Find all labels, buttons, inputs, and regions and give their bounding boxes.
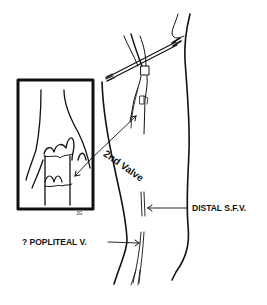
leg-outline-left <box>102 82 127 284</box>
inset-frame <box>18 80 93 209</box>
leg-outline-right <box>172 14 190 280</box>
popliteal-arrow <box>108 242 139 243</box>
vein-clip <box>141 66 149 75</box>
upper-vein-2 <box>131 34 142 66</box>
distal-sfv-label: DISTAL S.F.V. <box>192 203 246 213</box>
popliteal-label: ? POPLITEAL V. <box>22 237 87 247</box>
leg-illustration <box>0 0 267 305</box>
inset-signature: JG <box>76 210 82 216</box>
distal-sfv-vein <box>141 192 145 216</box>
hip-bulge <box>172 14 184 38</box>
valve-cusps-lower <box>45 176 62 182</box>
